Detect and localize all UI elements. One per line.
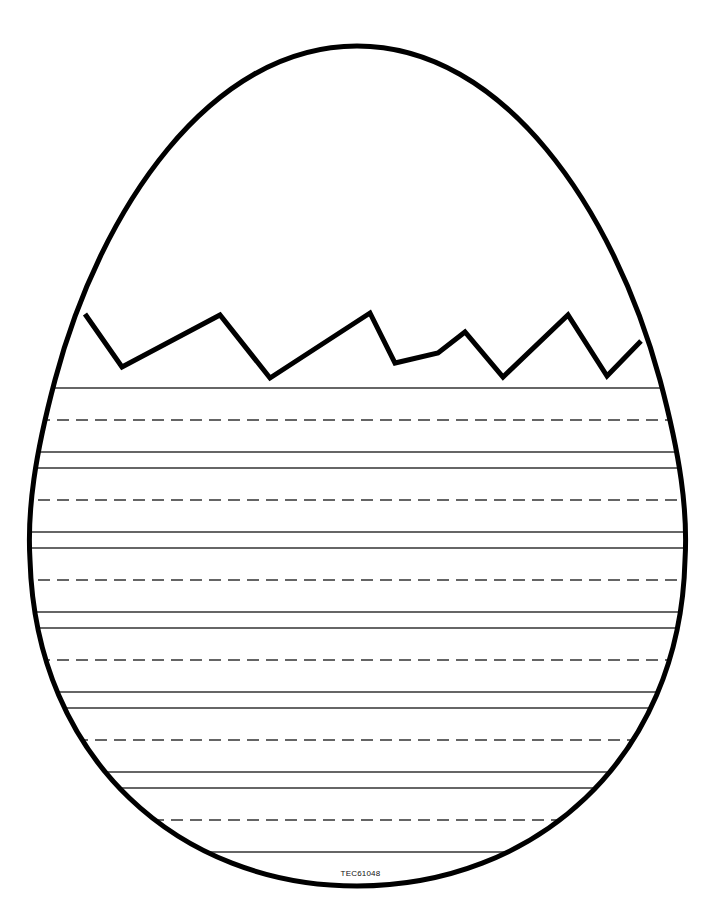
egg-crack-line	[85, 313, 641, 378]
egg-outline	[29, 46, 685, 886]
egg-writing-sheet	[0, 0, 721, 923]
product-code: TEC61048	[0, 869, 721, 878]
writing-lines	[0, 388, 721, 852]
